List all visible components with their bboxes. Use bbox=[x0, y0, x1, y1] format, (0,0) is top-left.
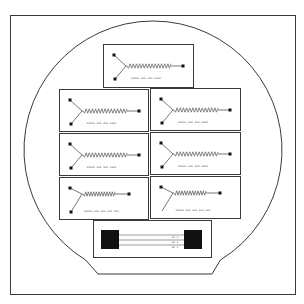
contact-pad bbox=[70, 123, 73, 126]
bond-pad-right bbox=[184, 230, 202, 249]
device-cell: xxxxx xxx xxx xxxx bbox=[151, 89, 241, 131]
device-label: xxxxx xxx xxx xxx xxx bbox=[84, 210, 119, 213]
contact-pad bbox=[161, 166, 164, 169]
contact-pad bbox=[69, 187, 72, 190]
contact-pad bbox=[182, 65, 185, 68]
contact-pad bbox=[70, 167, 73, 170]
device-border bbox=[60, 178, 149, 220]
device-label: xxxxx xxx xxx xxxx bbox=[87, 122, 117, 125]
device-grid: xxxxx xxx xxx xxxxxxxxx xxx xxx xxxxxxxx… bbox=[60, 45, 241, 220]
contact-pad bbox=[69, 99, 72, 102]
device-label: xxxxx xxx xxx xxxx bbox=[87, 166, 117, 169]
trace-label: xx x bbox=[172, 246, 179, 249]
device-cell: xxxxx xxx xxx xxx xxx bbox=[60, 178, 149, 220]
device-border bbox=[151, 177, 241, 219]
device-cell: xxxxx xxx xxx xxx xxx bbox=[151, 177, 241, 219]
device-cell: xxxxx xxx xxx xxxx bbox=[104, 45, 194, 88]
contact-pad bbox=[219, 192, 222, 195]
contact-pad bbox=[229, 109, 232, 112]
device-border bbox=[60, 90, 149, 132]
contact-pad bbox=[70, 211, 73, 214]
device-label: xxxxx xxx xxx xxxx bbox=[131, 77, 161, 80]
device-label: xxxxx xxx xxx xxx xxx bbox=[176, 209, 211, 212]
device-cell: xxxxx xxx xxx xxxx bbox=[151, 133, 241, 175]
contact-pad bbox=[160, 186, 163, 189]
contact-pad bbox=[69, 143, 72, 146]
device-border bbox=[60, 134, 149, 176]
contact-pad bbox=[138, 154, 141, 157]
device-label: xxxxx xxx xxx xxxx bbox=[178, 165, 208, 168]
contact-pad bbox=[138, 110, 141, 113]
trace-label: xx x bbox=[172, 241, 179, 244]
contact-pad bbox=[160, 98, 163, 101]
contact-pad bbox=[128, 193, 131, 196]
wafer-diagram: xxxxx xxx xxx xxxxxxxxx xxx xxx xxxxxxxx… bbox=[0, 0, 304, 304]
device-cell: xxxxx xxx xxx xxxx bbox=[60, 90, 149, 132]
contact-pad bbox=[160, 142, 163, 145]
device-label: xxxxx xxx xxx xxxx bbox=[178, 121, 208, 124]
contact-pad bbox=[229, 153, 232, 156]
trace-label: xx x bbox=[172, 236, 179, 239]
test-structure: xx xxx xxx x bbox=[94, 221, 212, 258]
device-cell: xxxxx xxx xxx xxxx bbox=[60, 134, 149, 176]
bond-pad-left bbox=[101, 230, 119, 249]
contact-pad bbox=[114, 78, 117, 81]
contact-pad bbox=[113, 54, 116, 57]
contact-pad bbox=[161, 122, 164, 125]
